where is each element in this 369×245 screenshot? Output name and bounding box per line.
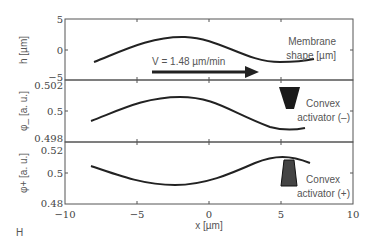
mid-ytick-0502: 0.502 bbox=[34, 80, 63, 91]
xtick-0: 0 bbox=[206, 209, 212, 220]
convex-activator-plus-curve bbox=[91, 157, 310, 185]
bot-ylabel: φ+ [a. u.] bbox=[18, 153, 29, 193]
mid-ytick-05: 0.5 bbox=[47, 106, 63, 117]
bot-ytick-052: 0.52 bbox=[41, 145, 63, 156]
velocity-arrow-head bbox=[245, 66, 259, 78]
mid-ylabel: φ_ [a. u.] bbox=[18, 91, 29, 131]
bot-ytick-048: 0.48 bbox=[41, 198, 63, 209]
top-ylabel: h [µm] bbox=[18, 36, 29, 64]
xtick-5: 5 bbox=[278, 209, 284, 220]
velocity-label: V = 1.48 µm/min bbox=[152, 56, 225, 67]
figure-label: H bbox=[16, 227, 23, 238]
figure-canvas: 5 0 −5 0.502 0.5 0.498 0.52 0.5 0.48 h [… bbox=[0, 0, 369, 245]
xtick-neg5: −5 bbox=[130, 209, 145, 220]
convex-activator-plus-icon bbox=[281, 160, 297, 186]
xlabel: x [µm] bbox=[195, 220, 223, 231]
mid-ytick-0498: 0.498 bbox=[34, 133, 63, 144]
convex-activator-minus-icon bbox=[279, 87, 300, 109]
membrane-annotation-line2: shape [µm] bbox=[286, 50, 336, 61]
convex-activator-minus-curve bbox=[91, 97, 305, 130]
membrane-annotation-line1: Membrane bbox=[288, 36, 336, 47]
top-ytick-0: 0 bbox=[57, 45, 63, 56]
activator-minus-line2: activator (–) bbox=[297, 112, 350, 123]
activator-minus-line1: Convex bbox=[306, 98, 340, 109]
panel-middle-frame bbox=[65, 80, 353, 142]
xtick-neg10: −10 bbox=[54, 209, 75, 220]
activator-plus-line1: Convex bbox=[306, 174, 340, 185]
top-ytick-5: 5 bbox=[57, 14, 63, 25]
activator-plus-line2: activator (+) bbox=[297, 188, 350, 199]
bot-ytick-05: 0.5 bbox=[47, 168, 63, 179]
xtick-10: 10 bbox=[347, 209, 360, 220]
